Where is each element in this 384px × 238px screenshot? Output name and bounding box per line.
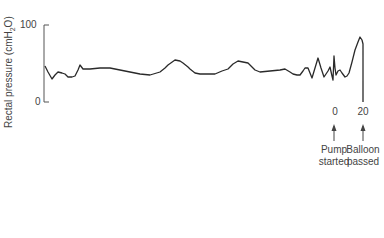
arrow-up-icon bbox=[332, 124, 337, 131]
arrow-up-icon bbox=[361, 124, 366, 131]
y-axis-label: Rectal pressure (cmH2O) bbox=[3, 128, 17, 238]
annotation-balloon-passed-text: Balloon passed bbox=[338, 144, 384, 168]
annotation-balloon-passed-value: 20 bbox=[355, 106, 371, 118]
pressure-trace-line bbox=[45, 37, 363, 102]
y-tick-label-0: 0 bbox=[35, 96, 41, 107]
y-tick-label-100: 100 bbox=[20, 19, 37, 30]
annotation-pump-started-value: 0 bbox=[329, 106, 341, 118]
